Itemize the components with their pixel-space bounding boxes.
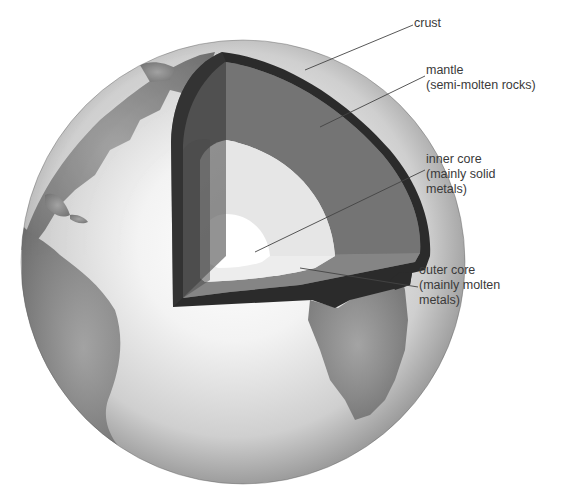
cutaway-wedge (171, 52, 430, 308)
label-inner-core-line-1: inner core (426, 152, 495, 167)
label-outer-core-line-1: outer core (419, 263, 500, 278)
label-inner-core-line-2: (mainly solid (426, 167, 495, 182)
label-mantle-line-2: (semi-molten rocks) (426, 78, 536, 93)
label-mantle: mantle (semi-molten rocks) (426, 63, 536, 93)
label-outer-core-line-3: metals) (419, 293, 500, 308)
label-crust-line-1: crust (414, 16, 441, 31)
label-outer-core-line-2: (mainly molten (419, 278, 500, 293)
label-inner-core: inner core (mainly solid metals) (426, 152, 495, 197)
label-inner-core-line-3: metals) (426, 182, 495, 197)
crust-leader-line (305, 25, 413, 70)
label-mantle-line-1: mantle (426, 63, 536, 78)
label-crust: crust (414, 16, 441, 31)
label-outer-core: outer core (mainly molten metals) (419, 263, 500, 308)
